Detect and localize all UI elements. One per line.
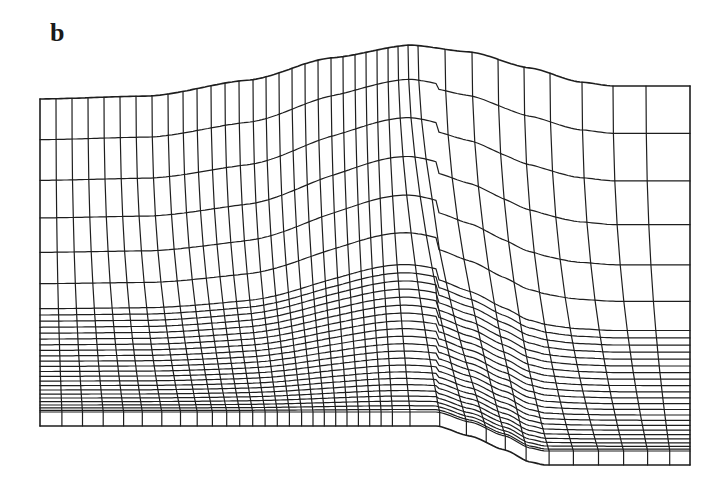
mesh-column-line: [582, 82, 624, 465]
mesh-row-line: [40, 233, 690, 302]
mesh-column-line: [253, 80, 277, 426]
mesh-row-line: [40, 79, 690, 139]
mesh-column-line: [292, 68, 313, 426]
computational-mesh: [0, 0, 727, 499]
mesh-column-line: [366, 52, 381, 426]
mesh-row-line: [40, 396, 690, 439]
mesh-column-line: [266, 77, 289, 426]
mesh-column-line: [239, 81, 265, 426]
mesh-column-line: [613, 86, 648, 465]
mesh-column-line: [377, 50, 392, 426]
mesh-column-line: [498, 59, 549, 465]
mesh-column-line: [646, 86, 670, 465]
mesh-row-line: [40, 45, 690, 99]
mesh-column-line: [56, 99, 62, 426]
mesh-row-line: [40, 195, 690, 265]
mesh-row-lines: [40, 45, 690, 465]
